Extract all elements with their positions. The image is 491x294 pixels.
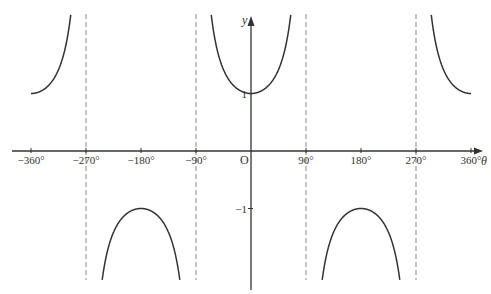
x-tick-label: 180°: [351, 154, 372, 166]
sec-graph: θ y O −360°−270°−180°−90°90°180°270°360°…: [0, 0, 491, 294]
x-tick-label: 90°: [298, 154, 313, 166]
curve-branch-1: [31, 15, 71, 94]
x-tick-label: −270°: [72, 154, 99, 166]
curve-branch-2: [102, 209, 180, 280]
x-tick-label: −90°: [185, 154, 207, 166]
x-tick-label: −180°: [127, 154, 154, 166]
x-tick-label: 360°: [461, 154, 482, 166]
x-tick-label: −360°: [17, 154, 44, 166]
y-axis-arrow: [248, 16, 255, 26]
curve-branch-4: [322, 209, 400, 280]
y-tick-label: −1: [235, 203, 247, 215]
x-tick-label: 270°: [406, 154, 427, 166]
y-axis-label: y: [241, 13, 248, 27]
origin-label: O: [240, 153, 249, 167]
curve-branch-5: [431, 15, 471, 94]
x-axis-label: θ: [481, 154, 487, 168]
